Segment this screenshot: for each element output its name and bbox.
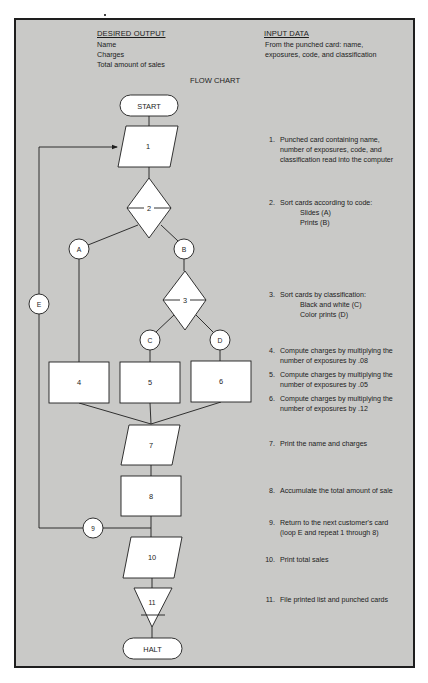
node-label: 5 <box>148 378 152 387</box>
halt-label: HALT <box>143 645 162 654</box>
step-text: number of exposures by .08 <box>262 356 393 366</box>
step-number: 3. <box>262 290 275 300</box>
step-text: Sort cards according to code: <box>280 199 372 207</box>
step-2: 2.Sort cards according to code: Slides (… <box>262 198 372 228</box>
step-10: 10.Print total sales <box>262 555 329 565</box>
node-label: 2 <box>147 204 151 213</box>
step-subitem: Black and white (C) <box>262 300 366 310</box>
step-1: 1.Punched card containing name, number o… <box>262 135 393 165</box>
connector-label: B <box>182 246 187 253</box>
step-number: 4. <box>262 346 275 356</box>
connector-line <box>88 225 138 245</box>
connector-label: C <box>148 337 153 344</box>
connector-label: A <box>77 246 82 253</box>
connector-label: D <box>218 337 223 344</box>
step-6: 6.Compute charges by multiplying the num… <box>262 394 393 414</box>
connector-line <box>150 403 151 424</box>
step-text: Print total sales <box>280 556 329 564</box>
step-text: Sort cards by classification: <box>280 291 366 299</box>
node-label: 7 <box>149 441 153 450</box>
step-7: 7.Print the name and charges <box>262 439 367 449</box>
step-number: 9. <box>262 518 275 528</box>
step-number: 1. <box>262 135 275 145</box>
step-number: 8. <box>262 486 275 496</box>
step-text: Accumulate the total amount of sale <box>280 487 393 495</box>
step-subitem: Slides (A) <box>262 208 372 218</box>
connector-line <box>161 225 178 241</box>
step-8: 8.Accumulate the total amount of sale <box>262 486 393 496</box>
step-text: Return to the next customer's card <box>280 519 388 527</box>
step-text: File printed list and punched cards <box>280 596 388 604</box>
step-number: 10. <box>262 555 275 565</box>
step-text: number of exposures by .12 <box>262 404 393 414</box>
step-4: 4.Compute charges by multiplying the num… <box>262 346 393 366</box>
step-text: Punched card containing name, <box>280 136 380 144</box>
step-text: Print the name and charges <box>280 440 367 448</box>
connector-line <box>151 402 221 424</box>
node-label: 11 <box>148 599 155 606</box>
step-subitem: Prints (B) <box>262 218 372 228</box>
step-text: number of exposures by .05 <box>262 380 393 390</box>
node-label: 8 <box>149 492 153 501</box>
step-number: 5. <box>262 370 275 380</box>
step-9: 9.Return to the next customer's card (lo… <box>262 518 388 538</box>
step-text: Compute charges by multiplying the <box>280 395 393 403</box>
step-number: 2. <box>262 198 275 208</box>
step-text: (loop E and repeat 1 through 8) <box>262 528 388 538</box>
node-label: 10 <box>148 553 156 562</box>
flowchart-diagram: START 1 2 A B 3 C D E 4 5 6 7 8 9 10 11 … <box>0 0 428 683</box>
node-label: 6 <box>219 377 223 386</box>
connector-line <box>79 403 151 424</box>
step-5: 5.Compute charges by multiplying the num… <box>262 370 393 390</box>
connector-line <box>196 315 213 332</box>
step-number: 11. <box>262 595 275 605</box>
connector-label: 9 <box>91 525 95 532</box>
step-11: 11.File printed list and punched cards <box>262 595 388 605</box>
offline-storage-triangle-11 <box>134 588 172 627</box>
node-label: 4 <box>77 378 81 387</box>
step-3: 3.Sort cards by classification: Black an… <box>262 290 366 320</box>
node-label: 3 <box>183 296 187 305</box>
connector-label: E <box>37 301 42 308</box>
step-text: Compute charges by multiplying the <box>280 371 393 379</box>
step-text: number of exposures, code, and <box>262 145 393 155</box>
step-subitem: Color prints (D) <box>262 310 366 320</box>
step-number: 7. <box>262 439 275 449</box>
start-label: START <box>137 102 161 111</box>
step-text: classification read into the computer <box>262 155 393 165</box>
node-label: 1 <box>146 142 150 151</box>
connector-line <box>156 315 174 332</box>
step-text: Compute charges by multiplying the <box>280 347 393 355</box>
step-number: 6. <box>262 394 275 404</box>
